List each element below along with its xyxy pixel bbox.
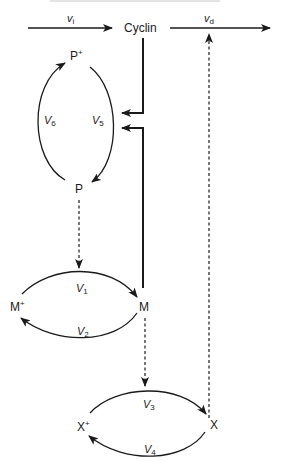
vd-label: vd xyxy=(204,12,214,26)
cropped-caption xyxy=(50,0,220,2)
cyclin-oscillator-diagram: vi Cyclin vd P+ P V5 V6 M+ M V1 V2 X+ X … xyxy=(0,0,281,464)
v6-label: V6 xyxy=(44,114,56,128)
v5-label: V5 xyxy=(92,114,104,128)
node-p: P xyxy=(75,182,83,196)
v3-label: V3 xyxy=(143,398,155,412)
vi-label: vi xyxy=(67,12,75,26)
v1-label: V1 xyxy=(76,282,88,296)
v2-label: V2 xyxy=(77,325,89,339)
node-x-plus: X+ xyxy=(77,419,90,434)
node-m-plus: M+ xyxy=(10,299,25,314)
m-to-v5-arrow xyxy=(122,128,143,288)
node-cyclin: Cyclin xyxy=(124,21,157,35)
cyclin-to-v5-arrow xyxy=(122,38,143,113)
node-m: M xyxy=(139,300,149,314)
node-p-plus: P+ xyxy=(70,48,83,63)
v4-label: V4 xyxy=(144,443,156,457)
node-x: X xyxy=(210,418,218,432)
